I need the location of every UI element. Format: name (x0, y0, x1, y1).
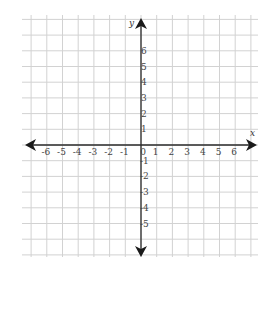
x-tick-label: 1 (153, 147, 159, 157)
x-tick-label: -5 (57, 147, 66, 157)
x-tick-label: 4 (200, 147, 206, 157)
y-tick-label: 1 (141, 124, 147, 134)
y-tick-label: -2 (140, 171, 149, 181)
x-tick-label: -3 (89, 147, 98, 157)
y-axis-label: y (128, 18, 135, 28)
x-tick-label: -1 (120, 147, 129, 157)
y-tick-label: -4 (140, 203, 149, 213)
y-tick-label: -3 (140, 187, 149, 197)
x-tick-label: 6 (231, 147, 237, 157)
y-tick-label: 2 (141, 109, 147, 119)
x-tick-label: -4 (73, 147, 82, 157)
x-tick-label: -6 (41, 147, 50, 157)
y-tick-label: -1 (140, 156, 149, 166)
y-tick-label: 6 (141, 46, 147, 56)
y-tick-label: 3 (141, 93, 147, 103)
y-tick-label: 5 (141, 62, 147, 72)
x-tick-label: 2 (169, 147, 175, 157)
y-tick-label: 4 (141, 77, 147, 87)
y-tick-label: -5 (140, 219, 149, 229)
x-tick-label: 3 (184, 147, 190, 157)
x-axis-label: x (250, 128, 255, 138)
coordinate-plane: x y -6-5-4-3-2-10123456 654321-1-2-3-4-5 (0, 0, 277, 314)
x-tick-label: 5 (216, 147, 222, 157)
x-tick-label: -2 (104, 147, 113, 157)
